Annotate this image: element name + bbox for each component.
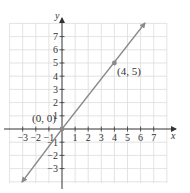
point-4-5-label: (4, 5)	[117, 65, 141, 78]
x-tick-label: 4	[112, 132, 117, 143]
y-tick-label: −3	[47, 163, 58, 174]
x-tick-label: 6	[138, 132, 143, 143]
y-tick-label: 4	[53, 71, 58, 82]
y-axis-label: y	[54, 10, 60, 21]
y-tick-label: 6	[53, 44, 58, 55]
x-tick-label: −3	[17, 132, 28, 143]
x-tick-label: 1	[73, 132, 78, 143]
x-tick-label: 2	[86, 132, 91, 143]
x-tick-label: 3	[99, 132, 104, 143]
x-tick-label: 7	[151, 132, 156, 143]
y-tick-label: 2	[53, 97, 58, 108]
origin-point-label: (0, 0)	[32, 112, 56, 125]
y-tick-label: −2	[47, 150, 58, 161]
x-tick-label: 5	[125, 132, 130, 143]
x-tick-label: −2	[30, 132, 41, 143]
line-graph: −3 −2 −1 1 2 3 4 5 6 7 7 6 5 4 3 2 1 −1 …	[0, 0, 190, 193]
grid	[10, 23, 167, 183]
y-tick-label: 3	[53, 84, 58, 95]
y-tick-label: 5	[53, 57, 58, 68]
point-origin	[60, 127, 65, 132]
x-tick-labels: −3 −2 −1 1 2 3 4 5 6 7	[17, 132, 156, 143]
x-axis-label: x	[170, 130, 176, 141]
y-tick-label: 7	[53, 31, 58, 42]
